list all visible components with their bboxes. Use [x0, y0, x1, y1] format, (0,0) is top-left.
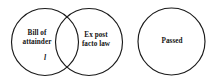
- region-mark-annotation: l: [37, 53, 53, 62]
- label-ex-post-facto-law: Ex post facto law: [74, 31, 118, 48]
- label-bill-of-attainder-line2: attainder: [14, 38, 60, 47]
- label-bill-of-attainder: Bill of attainder: [14, 29, 60, 46]
- label-ex-post-facto-law-line1: Ex post: [74, 31, 118, 40]
- label-passed: Passed: [149, 37, 195, 46]
- venn-diagram-canvas: Bill of attainder l Ex post facto law Pa…: [0, 0, 209, 83]
- label-bill-of-attainder-line1: Bill of: [14, 29, 60, 38]
- label-ex-post-facto-law-line2: facto law: [74, 40, 118, 49]
- label-passed-line1: Passed: [149, 37, 195, 46]
